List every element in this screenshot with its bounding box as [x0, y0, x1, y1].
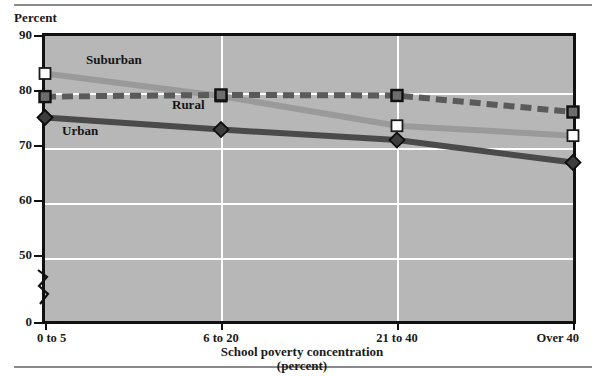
- data-point-marker-rural: [568, 107, 579, 118]
- data-point-marker-rural: [40, 91, 51, 102]
- data-point-marker-urban: [390, 133, 405, 148]
- x-axis-title: School poverty concentration (percent): [0, 345, 604, 372]
- series-label-rural: Rural: [172, 97, 205, 113]
- series-line-urban: [45, 118, 573, 163]
- data-point-marker-suburban: [392, 120, 403, 131]
- x-axis-title-main: School poverty concentration: [221, 344, 383, 359]
- series-label-suburban: Suburban: [86, 52, 142, 68]
- data-point-marker-suburban: [568, 130, 579, 141]
- data-point-marker-rural: [216, 89, 227, 100]
- data-point-marker-suburban: [40, 68, 51, 79]
- x-axis-title-sub: (percent): [0, 359, 604, 373]
- series-label-urban: Urban: [62, 123, 98, 139]
- data-point-marker-urban: [566, 155, 581, 170]
- data-point-marker-urban: [38, 110, 53, 125]
- data-point-marker-urban: [214, 122, 229, 137]
- data-point-marker-rural: [392, 90, 403, 101]
